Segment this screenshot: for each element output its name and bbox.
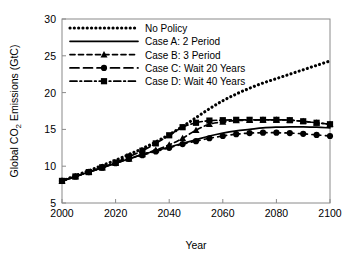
chart-legend: No PolicyCase A: 2 PeriodCase B: 3 Perio… (70, 23, 245, 87)
data-point-square (206, 117, 212, 123)
chart-figure: 51015202530200020202040206020802100 No P… (0, 0, 355, 266)
data-point-circle (273, 130, 279, 136)
data-point-circle (314, 132, 320, 138)
y-axis-title: Global CO2 Emissions (GtC) (8, 45, 23, 178)
data-point-square (220, 117, 226, 123)
legend-item-4[interactable]: Case C: Wait 20 Years (70, 63, 245, 74)
x-axis-title: Year (185, 239, 207, 251)
y-tick-label: 30 (44, 13, 56, 25)
data-point-square (86, 169, 92, 175)
data-point-circle (300, 131, 306, 137)
x-tick-label: 2080 (265, 207, 289, 219)
x-tick-label: 2100 (318, 207, 342, 219)
x-tick-label: 2040 (158, 207, 182, 219)
data-point-circle (166, 145, 172, 151)
legend-label: Case B: 3 Period (145, 50, 221, 61)
y-tick-label: 20 (44, 87, 56, 99)
legend-label: Case D: Wait 40 Years (145, 76, 245, 87)
data-point-square (287, 117, 293, 123)
x-tick-label: 2060 (211, 207, 235, 219)
data-point-circle (206, 135, 212, 141)
legend-item-3[interactable]: Case B: 3 Period (70, 50, 221, 61)
data-point-circle (153, 148, 159, 154)
data-point-circle (193, 138, 199, 144)
legend-label: Case C: Wait 20 Years (145, 63, 245, 74)
data-point-circle (247, 130, 253, 136)
legend-item-2[interactable]: Case A: 2 Period (70, 36, 220, 47)
legend-item-1[interactable]: No Policy (70, 23, 187, 34)
data-point-triangle (179, 135, 186, 141)
data-point-square (193, 120, 199, 126)
y-tick-label: 25 (44, 50, 56, 62)
legend-label: No Policy (145, 23, 187, 34)
data-point-circle (260, 130, 266, 136)
data-point-square (180, 124, 186, 130)
data-point-square (260, 117, 266, 123)
legend-label: Case A: 2 Period (145, 36, 220, 47)
y-tick-label: 10 (44, 160, 56, 172)
data-point-square (113, 159, 119, 165)
data-point-square (101, 78, 107, 84)
data-point-square (233, 117, 239, 123)
data-point-circle (220, 133, 226, 139)
data-point-circle (233, 131, 239, 137)
x-tick-label: 2020 (104, 207, 128, 219)
data-point-square (247, 117, 253, 123)
data-point-square (99, 164, 105, 170)
data-point-square (139, 148, 145, 154)
data-point-circle (327, 133, 333, 139)
emissions-line-chart: 51015202530200020202040206020802100 No P… (0, 0, 355, 266)
data-point-circle (101, 65, 107, 71)
data-point-square (59, 178, 65, 184)
data-point-circle (180, 141, 186, 147)
data-point-square (72, 173, 78, 179)
data-point-square (300, 118, 306, 124)
data-point-square (314, 120, 320, 126)
data-point-circle (287, 130, 293, 136)
data-point-square (153, 140, 159, 146)
data-point-square (166, 132, 172, 138)
x-tick-label: 2000 (50, 207, 74, 219)
y-tick-label: 15 (44, 123, 56, 135)
data-point-square (126, 154, 132, 160)
legend-item-5[interactable]: Case D: Wait 40 Years (70, 76, 245, 87)
data-point-square (273, 117, 279, 123)
series-4 (59, 130, 333, 184)
data-point-square (327, 121, 333, 127)
